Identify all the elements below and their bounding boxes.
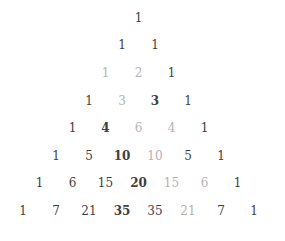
triangle-cell: 3 [106, 95, 139, 107]
triangle-cell: 6 [56, 177, 89, 189]
triangle-cell: 5 [172, 150, 205, 162]
triangle-cell: 1 [139, 39, 172, 51]
triangle-cell: 21 [73, 205, 106, 217]
triangle-cell: 2 [122, 67, 155, 79]
triangle-cell: 15 [89, 177, 122, 189]
triangle-cell: 21 [172, 205, 205, 217]
triangle-cell: 1 [172, 95, 205, 107]
triangle-row: 1615201561 [0, 170, 281, 198]
triangle-cell: 10 [139, 150, 172, 162]
triangle-row: 1 [0, 4, 281, 32]
triangle-cell: 7 [205, 205, 238, 217]
triangle-row: 172135352171 [0, 197, 281, 225]
triangle-cell: 4 [155, 122, 188, 134]
triangle-cell: 10 [106, 150, 139, 162]
triangle-cell: 1 [89, 67, 122, 79]
triangle-cell: 15 [155, 177, 188, 189]
pascal-triangle: 1111211331146411510105116152015611721353… [0, 0, 281, 225]
triangle-row: 11 [0, 32, 281, 60]
triangle-cell: 1 [221, 177, 254, 189]
triangle-cell: 35 [106, 205, 139, 217]
triangle-cell: 1 [40, 150, 73, 162]
triangle-cell: 5 [73, 150, 106, 162]
triangle-cell: 7 [40, 205, 73, 217]
triangle-cell: 6 [188, 177, 221, 189]
triangle-cell: 3 [139, 95, 172, 107]
triangle-cell: 1 [56, 122, 89, 134]
triangle-row: 15101051 [0, 142, 281, 170]
triangle-cell: 1 [7, 205, 40, 217]
triangle-row: 121 [0, 59, 281, 87]
triangle-cell: 1 [188, 122, 221, 134]
triangle-row: 14641 [0, 114, 281, 142]
triangle-cell: 20 [122, 177, 155, 189]
triangle-cell: 1 [205, 150, 238, 162]
triangle-cell: 6 [122, 122, 155, 134]
triangle-cell: 1 [155, 67, 188, 79]
triangle-cell: 1 [23, 177, 56, 189]
triangle-cell: 1 [73, 95, 106, 107]
triangle-cell: 35 [139, 205, 172, 217]
triangle-cell: 1 [122, 12, 155, 24]
triangle-cell: 4 [89, 122, 122, 134]
triangle-cell: 1 [106, 39, 139, 51]
pascal-triangle-figure: 1111211331146411510105116152015611721353… [0, 0, 285, 241]
triangle-cell: 1 [238, 205, 271, 217]
triangle-row: 1331 [0, 87, 281, 115]
